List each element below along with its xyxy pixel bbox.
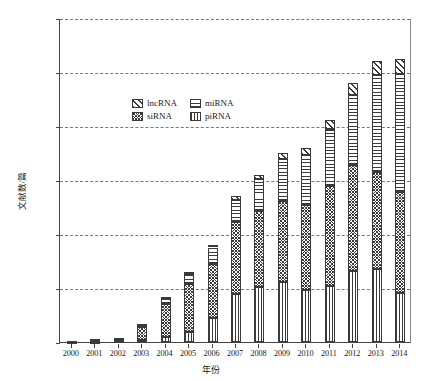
bar-group [114, 18, 124, 342]
x-axis-tick-mark [94, 344, 95, 348]
bar-group [301, 18, 311, 342]
bar-segment-miRNA [208, 248, 218, 264]
bar-group [348, 18, 358, 342]
x-axis-tick-mark [165, 344, 166, 348]
bar-segment-miRNA [372, 75, 382, 172]
bar-group [254, 18, 264, 342]
x-axis-tick-mark [235, 344, 236, 348]
x-axis: 2000200120022003200420052006200720082009… [59, 344, 411, 364]
bar-segment-lncRNA [114, 338, 124, 340]
publication-count-stacked-bar-chart: 文献数/篇 05 00010 00015 00020 00025 00030 0… [0, 0, 421, 381]
bar-segment-lncRNA [231, 196, 241, 200]
bar-group [231, 18, 241, 342]
legend-item-piRNA: piRNA [190, 112, 234, 121]
bar-segment-miRNA [231, 200, 241, 223]
bar-segment-piRNA [184, 332, 194, 342]
bar-segment-piRNA [254, 287, 264, 342]
bar-group [278, 18, 288, 342]
x-axis-title: 年份 [0, 363, 421, 376]
bar-segment-siRNA [254, 211, 264, 288]
x-axis-tick-label: 2003 [133, 349, 149, 358]
x-axis-tick-mark [282, 344, 283, 348]
bar-group [67, 18, 77, 342]
bar-group [137, 18, 147, 342]
x-axis-tick-label: 2010 [297, 349, 313, 358]
x-axis-tick-mark [188, 344, 189, 348]
x-axis-tick-mark [352, 344, 353, 348]
bar-segment-miRNA [254, 179, 264, 210]
legend-label: miRNA [205, 99, 234, 108]
bar-segment-siRNA [161, 304, 171, 336]
x-axis-tick-mark [305, 344, 306, 348]
legend-label: lncRNA [147, 99, 177, 108]
bar-segment-lncRNA [348, 83, 358, 95]
bar-segment-lncRNA [184, 272, 194, 274]
bar-segment-piRNA [372, 269, 382, 342]
bar-segment-lncRNA [90, 339, 100, 341]
vertical-lines-swatch [190, 112, 201, 121]
bar-segment-siRNA [208, 264, 218, 318]
bar-segment-piRNA [278, 282, 288, 342]
bar-segment-piRNA [301, 290, 311, 342]
bar-group [372, 18, 382, 342]
y-axis-title: 文献数/篇 [15, 171, 27, 209]
bar-segment-lncRNA [301, 148, 311, 156]
bar-segment-lncRNA [254, 175, 264, 180]
x-axis-tick-label: 2005 [180, 349, 196, 358]
x-axis-tick-label: 2009 [274, 349, 290, 358]
bar-segment-lncRNA [137, 324, 147, 326]
bar-segment-siRNA [348, 165, 358, 271]
diagonal-hatch-swatch [132, 99, 143, 108]
legend-item-siRNA: siRNA [132, 112, 177, 121]
bar-segment-piRNA [161, 337, 171, 342]
dense-cross-hatch-swatch [132, 112, 143, 121]
bar-segment-piRNA [325, 286, 335, 342]
x-axis-tick-mark [118, 344, 119, 348]
bar-segment-miRNA [184, 274, 194, 285]
x-axis-tick-label: 2006 [204, 349, 220, 358]
bar-segment-lncRNA [161, 297, 171, 299]
horizontal-lines-swatch [190, 99, 201, 108]
x-axis-tick-mark [376, 344, 377, 348]
bar-segment-lncRNA [395, 59, 405, 74]
bar-segment-siRNA [278, 201, 288, 282]
plot-area: 05 00010 00015 00020 00025 00030 000 lnc… [59, 19, 411, 343]
bar-segment-miRNA [67, 341, 77, 343]
x-axis-tick-label: 2008 [250, 349, 266, 358]
bar-segment-siRNA [231, 222, 241, 293]
bar-segment-miRNA [348, 95, 358, 165]
bar-segment-siRNA [325, 186, 335, 285]
bar-segment-siRNA [301, 205, 311, 290]
x-axis-tick-mark [212, 344, 213, 348]
bar-segment-lncRNA [278, 153, 288, 159]
x-axis-tick-label: 2013 [368, 349, 384, 358]
x-axis-tick-label: 2012 [344, 349, 360, 358]
bar-segment-miRNA [325, 129, 335, 186]
x-axis-tick-label: 2002 [110, 349, 126, 358]
bar-segment-piRNA [208, 318, 218, 342]
legend-label: piRNA [205, 112, 231, 121]
bar-segment-piRNA [395, 293, 405, 342]
y-axis-tick-mark [56, 127, 60, 128]
x-axis-tick-mark [141, 344, 142, 348]
x-axis-tick-mark [329, 344, 330, 348]
bar-segment-piRNA [231, 294, 241, 342]
bar-group [325, 18, 335, 342]
bar-group [161, 18, 171, 342]
bar-segment-siRNA [372, 172, 382, 269]
x-axis-tick-label: 2004 [157, 349, 173, 358]
x-axis-tick-mark [399, 344, 400, 348]
x-axis-tick-mark [258, 344, 259, 348]
bar-segment-miRNA [161, 298, 171, 304]
bar-group [395, 18, 405, 342]
bar-segment-piRNA [137, 340, 147, 342]
x-axis-tick-label: 2011 [321, 349, 337, 358]
bar-group [90, 18, 100, 342]
y-axis-tick-mark [56, 289, 60, 290]
legend-item-miRNA: miRNA [190, 99, 234, 108]
x-axis-tick-label: 2014 [391, 349, 407, 358]
bar-segment-lncRNA [372, 61, 382, 75]
bar-segment-piRNA [348, 271, 358, 342]
y-axis-tick-mark [56, 19, 60, 20]
x-axis-tick-label: 2000 [63, 349, 79, 358]
